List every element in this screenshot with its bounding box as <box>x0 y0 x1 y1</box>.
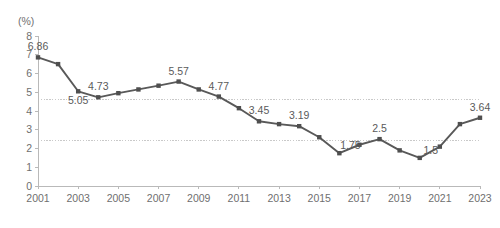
x-tick-label-2011: 2011 <box>228 192 251 204</box>
data-value-label-2010: 4.77 <box>209 80 230 92</box>
data-point-marker-2023 <box>478 116 482 120</box>
x-tick-label-2009: 2009 <box>187 192 211 204</box>
x-tick-label-2015: 2015 <box>308 192 332 204</box>
data-point-marker-2006 <box>136 87 140 91</box>
data-value-label-2014: 3.19 <box>289 109 310 121</box>
data-point-marker-2008 <box>176 79 180 83</box>
data-point-marker-2022 <box>458 122 462 126</box>
y-tick-label-4: 4 <box>26 105 32 117</box>
y-tick-label-6: 6 <box>26 67 32 79</box>
data-point-marker-2015 <box>317 135 321 139</box>
x-tick-label-2001: 2001 <box>26 192 50 204</box>
line-chart-container: 876543210 200120032005200720092011201320… <box>0 0 500 228</box>
data-value-label-2003: 5.05 <box>68 94 89 106</box>
data-point-marker-2011 <box>237 106 241 110</box>
data-point-marker-2009 <box>197 87 201 91</box>
data-point-marker-2014 <box>297 124 301 128</box>
data-point-marker-2005 <box>116 91 120 95</box>
data-value-label-2023: 3.64 <box>470 101 491 113</box>
data-point-marker-2003 <box>76 89 80 93</box>
x-tick-label-2005: 2005 <box>107 192 131 204</box>
chart-canvas: 876543210 200120032005200720092011201320… <box>0 0 500 228</box>
data-point-marker-2010 <box>217 94 221 98</box>
data-value-label-2008: 5.57 <box>168 65 189 77</box>
data-point-marker-2018 <box>377 137 381 141</box>
data-value-label-2012: 3.45 <box>249 104 270 116</box>
data-point-marker-2004 <box>96 95 100 99</box>
x-tick-label-2019: 2019 <box>388 192 412 204</box>
data-value-label-2020: 1.5 <box>423 144 438 156</box>
y-axis-unit-label: (%) <box>18 15 34 27</box>
x-tick-label-2023: 2023 <box>468 192 492 204</box>
data-point-marker-2019 <box>397 148 401 152</box>
data-value-label-2001: 6.86 <box>28 40 49 52</box>
y-tick-label-5: 5 <box>26 86 32 98</box>
y-tick-label-2: 2 <box>26 142 32 154</box>
data-value-label-2018: 2.5 <box>372 122 387 134</box>
x-tick-label-2021: 2021 <box>428 192 452 204</box>
data-point-marker-2001 <box>36 55 40 59</box>
data-point-marker-2007 <box>156 83 160 87</box>
data-point-marker-2016 <box>337 151 341 155</box>
y-tick-label-0: 0 <box>26 180 32 192</box>
data-value-label-2016: 1.75 <box>340 139 361 151</box>
x-tick-label-2007: 2007 <box>147 192 171 204</box>
y-axis-ticks-group: 876543210 <box>26 30 38 192</box>
x-tick-label-2003: 2003 <box>67 192 91 204</box>
y-tick-label-1: 1 <box>26 161 32 173</box>
x-tick-label-2013: 2013 <box>267 192 291 204</box>
data-point-marker-2002 <box>56 62 60 66</box>
x-axis-ticks-group: 2001200320052007200920112013201520172019… <box>26 186 492 204</box>
y-tick-label-3: 3 <box>26 123 32 135</box>
x-tick-label-2017: 2017 <box>348 192 372 204</box>
data-point-marker-2013 <box>277 122 281 126</box>
data-point-marker-2021 <box>438 144 442 148</box>
data-point-marker-2020 <box>418 156 422 160</box>
data-point-marker-2012 <box>257 119 261 123</box>
data-value-label-2004: 4.73 <box>88 80 109 92</box>
